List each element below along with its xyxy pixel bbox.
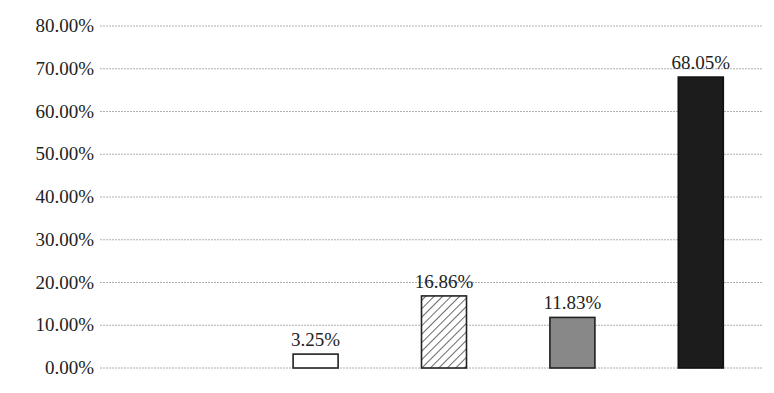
bar: [550, 317, 595, 368]
y-tick-label: 70.00%: [35, 58, 94, 79]
data-labels: 3.25%16.86%11.83%68.05%: [291, 52, 730, 350]
y-tick-label: 0.00%: [45, 357, 94, 378]
y-tick-label: 40.00%: [35, 186, 94, 207]
y-tick-label: 60.00%: [35, 101, 94, 122]
bar: [678, 77, 723, 368]
bar-value-label: 68.05%: [672, 52, 731, 73]
bar-chart: 0.00%10.00%20.00%30.00%40.00%50.00%60.00…: [0, 0, 774, 393]
y-tick-label: 10.00%: [35, 314, 94, 335]
bars: [293, 77, 723, 368]
bar: [422, 296, 467, 368]
y-tick-label: 20.00%: [35, 272, 94, 293]
bar-value-label: 3.25%: [291, 329, 340, 350]
bar-value-label: 11.83%: [543, 292, 601, 313]
y-tick-label: 80.00%: [35, 15, 94, 36]
bar-value-label: 16.86%: [415, 271, 474, 292]
y-axis-labels: 0.00%10.00%20.00%30.00%40.00%50.00%60.00…: [35, 15, 94, 378]
y-tick-label: 30.00%: [35, 229, 94, 250]
bar: [293, 354, 338, 368]
y-tick-label: 50.00%: [35, 143, 94, 164]
